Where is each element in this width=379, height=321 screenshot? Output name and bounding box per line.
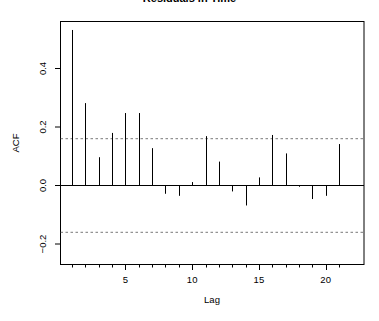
x-axis: 5101520 bbox=[73, 265, 340, 286]
x-tick-label: 5 bbox=[123, 274, 128, 285]
x-axis-label: Lag bbox=[204, 294, 220, 305]
y-tick-label: −0.2 bbox=[37, 235, 48, 254]
y-tick-label: 0.4 bbox=[37, 62, 48, 75]
y-axis-label: ACF bbox=[10, 133, 21, 152]
plot-frame bbox=[61, 22, 365, 265]
acf-plot: −0.20.00.20.4 5101520 Lag ACF bbox=[0, 0, 379, 321]
x-tick-label: 20 bbox=[320, 274, 331, 285]
x-tick-label: 15 bbox=[254, 274, 265, 285]
y-tick-label: 0.0 bbox=[37, 179, 48, 192]
acf-bars bbox=[61, 30, 365, 232]
y-tick-label: 0.2 bbox=[37, 120, 48, 133]
y-axis: −0.20.00.20.4 bbox=[37, 62, 61, 253]
x-tick-label: 10 bbox=[187, 274, 198, 285]
